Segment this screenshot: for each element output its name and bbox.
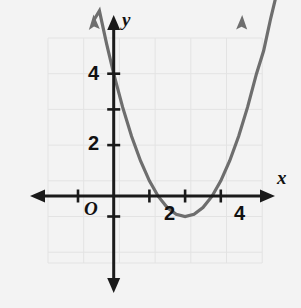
origin-label: O	[84, 199, 98, 218]
y-axis-arrow-down	[107, 278, 120, 293]
x-axis-arrow-right	[260, 190, 275, 203]
graph-figure: y x O 4 2 2 4	[0, 0, 301, 308]
curve-arrow-right	[236, 15, 247, 30]
x-axis	[30, 190, 275, 203]
grid-lines	[48, 38, 262, 263]
y-tick-label-4: 4	[88, 63, 99, 83]
y-tick-label-2: 2	[88, 133, 99, 153]
coordinate-plane	[0, 0, 301, 308]
y-axis-label: y	[122, 10, 130, 29]
x-tick-label-4: 4	[234, 203, 245, 223]
x-axis-label: x	[277, 168, 287, 187]
parabola-curve	[94, 0, 276, 217]
x-tick-label-2: 2	[164, 203, 175, 223]
x-axis-arrow-left	[30, 190, 45, 203]
curve-arrow-left	[89, 15, 100, 31]
y-axis-arrow-up	[107, 15, 120, 30]
